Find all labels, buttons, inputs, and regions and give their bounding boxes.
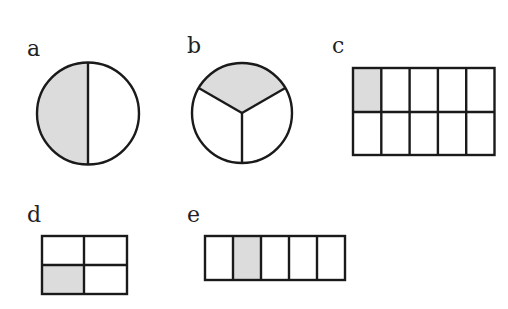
label-e: e: [187, 202, 200, 227]
fraction-figure: a b c d e: [0, 0, 508, 309]
shaded-cell: [233, 236, 261, 280]
shaded-half: [37, 62, 88, 165]
label-a: a: [27, 36, 40, 61]
label-b: b: [187, 33, 201, 58]
label-d: d: [27, 202, 41, 227]
shaded-sector: [199, 63, 286, 113]
strip-outline: [205, 236, 345, 280]
label-c: c: [332, 33, 344, 58]
figure-c: c: [332, 33, 495, 155]
figure-a: a: [27, 36, 139, 165]
figure-d: d: [27, 202, 127, 294]
figure-b: b: [187, 33, 292, 163]
shaded-cell: [353, 68, 381, 112]
figure-e: e: [187, 202, 345, 280]
shaded-cell: [42, 265, 84, 294]
